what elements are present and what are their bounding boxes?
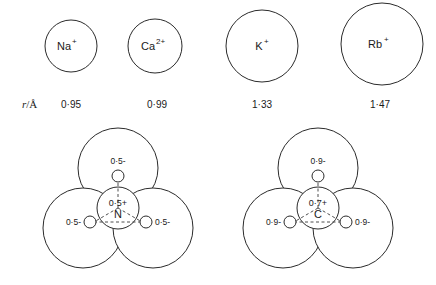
central-atom-label: N: [114, 208, 122, 220]
ligand-charge-bottom-right: 0·5-: [155, 217, 170, 227]
central-charge-label: 0·5+: [109, 198, 127, 208]
radius-value-k: 1·33: [252, 99, 272, 110]
radius-axis-label: r/Å: [22, 98, 37, 110]
radius-row: r/Å 0·95 0·99 1·33 1·47: [22, 98, 390, 110]
diagram-svg: Na + Ca 2+ K + Rb +: [0, 0, 436, 285]
ion-charge-rb: +: [384, 35, 389, 44]
radius-value-ca: 0·99: [147, 99, 167, 110]
ligand-dot-bottom-left: [84, 216, 96, 228]
ligand-dot-bottom-right: [140, 216, 152, 228]
ligand-dot-top: [312, 170, 324, 182]
ion-symbol-na: Na: [57, 40, 72, 52]
ion-na: Na +: [45, 20, 97, 72]
ion-rb: Rb +: [341, 3, 423, 85]
central-atom-label: C: [314, 208, 322, 220]
ion-row: Na + Ca 2+ K + Rb +: [45, 3, 423, 85]
ion-k: K +: [226, 10, 298, 82]
ligand-charge-bottom-left: 0·5-: [66, 217, 81, 227]
radius-value-na: 0·95: [61, 99, 81, 110]
ion-charge-na: +: [72, 37, 77, 46]
ligand-dot-bottom-right: [340, 216, 352, 228]
ion-symbol-ca: Ca: [141, 40, 156, 52]
ion-charge-k: +: [264, 37, 269, 46]
ion-charge-ca: 2+: [156, 37, 165, 46]
ligand-charge-bottom-right: 0·9-: [355, 217, 370, 227]
ligand-charge-top: 0·9-: [310, 156, 325, 166]
figure-canvas: Na + Ca 2+ K + Rb +: [0, 0, 436, 285]
ligand-dot-top: [112, 170, 124, 182]
ligand-dot-bottom-left: [284, 216, 296, 228]
ligand-charge-top: 0·5-: [110, 156, 125, 166]
ligand-charge-bottom-left: 0·9-: [266, 217, 281, 227]
molecule-carbonate-model: 0·9- 0·9- 0·9- 0·7+ C: [243, 128, 393, 268]
central-charge-label: 0·7+: [309, 198, 327, 208]
molecule-nitrate-model: 0·5- 0·5- 0·5- 0·5+ N: [43, 128, 193, 268]
ion-symbol-rb: Rb: [368, 38, 382, 50]
ion-symbol-k: K: [255, 40, 263, 52]
ion-ca: Ca 2+: [128, 19, 182, 73]
radius-axis-unit: Å: [29, 98, 37, 110]
radius-value-rb: 1·47: [370, 99, 390, 110]
